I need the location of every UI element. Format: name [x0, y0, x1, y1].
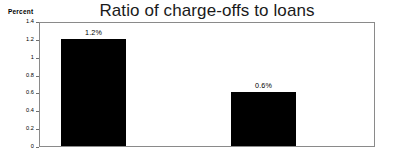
- plot-area: 1.2%0.6%: [39, 22, 375, 147]
- bar: [61, 39, 126, 146]
- y-axis-tick-label: 0.8: [26, 72, 34, 78]
- y-axis-unit-label: Percent: [8, 8, 33, 15]
- bar-value-label: 0.6%: [231, 81, 296, 90]
- y-axis-tick-label: 1: [31, 54, 34, 60]
- bar-chart-figure: Ratio of charge-offs to loans Percent 1.…: [0, 0, 393, 156]
- y-axis-tick-label: 0.4: [26, 107, 34, 113]
- y-axis-tick-label: 1.4: [26, 18, 34, 24]
- y-axis-tick-label: 0.2: [26, 125, 34, 131]
- y-axis: 1.41.210.80.60.40.20: [0, 22, 39, 148]
- bar: [231, 92, 296, 146]
- bar-value-label: 1.2%: [61, 28, 126, 37]
- y-axis-tick-label: 0: [31, 143, 34, 149]
- y-axis-tick-label: 0.6: [26, 89, 34, 95]
- y-axis-tick-label: 1.2: [26, 36, 34, 42]
- chart-title: Ratio of charge-offs to loans: [39, 0, 375, 22]
- y-axis-tick-mark: [36, 147, 39, 148]
